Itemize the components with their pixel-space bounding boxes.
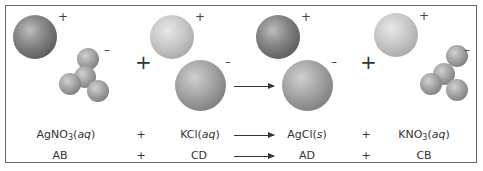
product1-formula: AgCl(s) (287, 128, 327, 141)
reactant2-generic: CD (191, 149, 207, 162)
positive-charge: + (58, 11, 68, 23)
reaction-arrow (234, 156, 274, 157)
reactant2-formula: KCl(aq) (180, 128, 220, 141)
plus-operator: + (361, 128, 370, 141)
negative-charge: – (464, 44, 470, 56)
chloride-anion-sphere (175, 60, 226, 111)
potassium-cation-sphere (374, 13, 418, 57)
reactant1-formula: AgNO3(aq) (37, 128, 96, 142)
positive-charge: + (195, 11, 205, 23)
positive-charge: + (419, 10, 429, 22)
negative-charge: – (225, 56, 231, 68)
product2-formula: KNO3(aq) (398, 128, 450, 142)
positive-charge: + (301, 11, 311, 23)
negative-charge: – (104, 44, 110, 56)
plus-operator: + (136, 149, 145, 162)
nitrate-oxygen-right (87, 80, 109, 102)
chloride-anion-sphere (282, 60, 333, 111)
silver-cation-sphere (256, 15, 300, 59)
nitrate-oxygen-left (420, 73, 442, 95)
plus-sign-1: + (135, 52, 152, 72)
potassium-cation-sphere (150, 15, 194, 59)
nitrate-oxygen-right (446, 79, 468, 101)
negative-charge: – (331, 56, 337, 68)
reaction-arrow (234, 86, 274, 87)
plus-operator: + (136, 128, 145, 141)
nitrate-oxygen-left (59, 73, 81, 95)
reaction-arrow (234, 135, 274, 136)
product2-generic: CB (416, 149, 431, 162)
plus-sign-2: + (360, 52, 377, 72)
reactant1-generic: AB (52, 149, 67, 162)
plus-operator: + (361, 149, 370, 162)
silver-cation-sphere (13, 15, 57, 59)
product1-generic: AD (299, 149, 315, 162)
